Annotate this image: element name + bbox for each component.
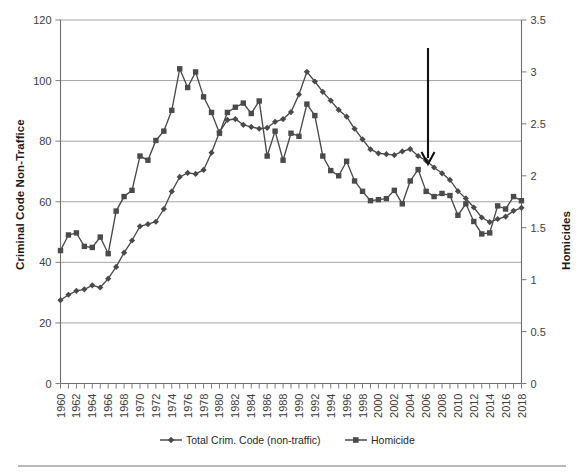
tick-label-x: 2014 <box>484 394 496 418</box>
tick-label-right: 1 <box>531 274 537 286</box>
tick-label-x: 1996 <box>341 394 353 418</box>
data-point-marker <box>304 101 309 106</box>
legend-marker-square <box>353 437 359 443</box>
data-point-marker <box>288 131 293 136</box>
tick-label-x: 1984 <box>245 394 257 418</box>
tick-label-x: 1998 <box>357 394 369 418</box>
data-point-marker <box>415 167 420 172</box>
tick-label-right: 3 <box>531 66 537 78</box>
data-point-marker <box>376 197 381 202</box>
data-point-marker <box>384 196 389 201</box>
tick-label-x: 2008 <box>436 394 448 418</box>
legend-label: Total Crim. Code (non-traffic) <box>186 434 321 446</box>
tick-label-x: 1962 <box>70 394 82 418</box>
tick-label-x: 2016 <box>500 394 512 418</box>
tick-label-right: 1.5 <box>531 222 546 234</box>
data-point-marker <box>257 98 262 103</box>
tick-label-x: 2002 <box>388 394 400 418</box>
data-point-marker <box>368 198 373 203</box>
data-point-marker <box>439 191 444 196</box>
data-point-marker <box>487 230 492 235</box>
tick-label-left: 40 <box>39 256 51 268</box>
data-point-marker <box>74 230 79 235</box>
right-axis-title: Homicides <box>560 211 572 270</box>
tick-label-left: 120 <box>33 14 51 26</box>
data-point-marker <box>217 131 222 136</box>
tick-label-x: 1972 <box>150 394 162 418</box>
data-point-marker <box>503 206 508 211</box>
tick-label-x: 1982 <box>229 394 241 418</box>
data-point-marker <box>336 173 341 178</box>
tick-label-right: 3.5 <box>531 14 546 26</box>
chart-legend: Total Crim. Code (non-traffic)Homicide <box>160 434 415 446</box>
data-point-marker <box>320 153 325 158</box>
data-point-marker <box>249 111 254 116</box>
data-point-marker <box>82 244 87 249</box>
tick-label-x: 2012 <box>468 394 480 418</box>
tick-label-left: 60 <box>39 196 51 208</box>
data-point-marker <box>312 113 317 118</box>
tick-label-right: 2.5 <box>531 118 546 130</box>
tick-label-left: 80 <box>39 135 51 147</box>
data-point-marker <box>185 85 190 90</box>
tick-label-x: 2000 <box>372 394 384 418</box>
data-point-marker <box>113 208 118 213</box>
data-point-marker <box>352 178 357 183</box>
data-point-marker <box>264 153 269 158</box>
tick-label-x: 1994 <box>325 394 337 418</box>
data-point-marker <box>280 158 285 163</box>
data-point-marker <box>344 159 349 164</box>
data-point-marker <box>98 234 103 239</box>
tick-label-x: 1976 <box>182 394 194 418</box>
tick-label-right: 2 <box>531 170 537 182</box>
crime-rate-chart: 020406080100120 00.511.522.533.5 1960196… <box>0 0 583 472</box>
data-point-marker <box>447 193 452 198</box>
tick-label-x: 1964 <box>86 394 98 418</box>
tick-label-right: 0.5 <box>531 326 546 338</box>
tick-label-x: 1960 <box>55 394 67 418</box>
data-point-marker <box>423 189 428 194</box>
tick-label-x: 1978 <box>198 394 210 418</box>
data-point-marker <box>90 245 95 250</box>
tick-label-x: 2010 <box>452 394 464 418</box>
tick-label-left: 0 <box>45 378 51 390</box>
data-point-marker <box>463 201 468 206</box>
data-point-marker <box>201 94 206 99</box>
data-point-marker <box>495 203 500 208</box>
data-point-marker <box>129 188 134 193</box>
legend-label: Homicide <box>371 434 415 446</box>
data-point-marker <box>225 110 230 115</box>
tick-label-x: 2004 <box>404 394 416 418</box>
data-point-marker <box>58 248 63 253</box>
data-point-marker <box>400 201 405 206</box>
tick-label-right: 0 <box>531 378 537 390</box>
data-point-marker <box>360 189 365 194</box>
data-point-marker <box>233 105 238 110</box>
tick-label-x: 1980 <box>213 394 225 418</box>
data-point-marker <box>137 153 142 158</box>
data-point-marker <box>408 178 413 183</box>
data-point-marker <box>431 194 436 199</box>
tick-label-left: 20 <box>39 317 51 329</box>
data-point-marker <box>479 231 484 236</box>
tick-label-x: 1970 <box>134 394 146 418</box>
tick-label-x: 2018 <box>516 394 528 418</box>
data-point-marker <box>209 110 214 115</box>
data-point-marker <box>511 194 516 199</box>
tick-label-x: 1986 <box>261 394 273 418</box>
data-point-marker <box>193 69 198 74</box>
data-point-marker <box>392 188 397 193</box>
data-point-marker <box>145 158 150 163</box>
left-axis-title: Criminal Code Non-Traffice <box>14 119 26 270</box>
tick-label-left: 100 <box>33 75 51 87</box>
data-point-marker <box>121 194 126 199</box>
tick-label-x: 2006 <box>420 394 432 418</box>
data-point-marker <box>519 198 524 203</box>
tick-label-x: 1974 <box>166 394 178 418</box>
tick-label-x: 1990 <box>293 394 305 418</box>
data-point-marker <box>169 108 174 113</box>
data-point-marker <box>66 232 71 237</box>
tick-label-x: 1968 <box>118 394 130 418</box>
data-point-marker <box>161 128 166 133</box>
tick-label-x: 1966 <box>102 394 114 418</box>
